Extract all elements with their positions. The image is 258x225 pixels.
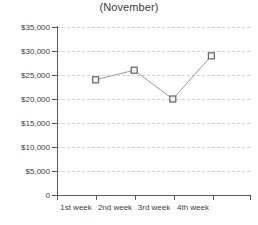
data-point-1 xyxy=(131,67,137,73)
data-point-3 xyxy=(208,53,214,59)
line-chart: (November) $35,000 $30,000 $25,000 $20,0… xyxy=(0,0,258,225)
data-point-2 xyxy=(170,96,176,102)
data-series xyxy=(0,0,258,225)
data-point-0 xyxy=(93,77,99,83)
series-markers xyxy=(93,53,215,102)
series-line xyxy=(96,56,212,99)
